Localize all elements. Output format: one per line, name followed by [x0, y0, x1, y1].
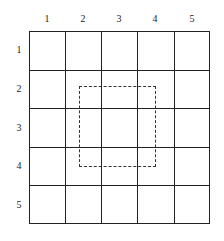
column-label-3: 3: [113, 14, 125, 24]
row-label-3: 3: [13, 123, 25, 133]
dashed-selection-rectangle: [79, 86, 156, 167]
grid-horizontal-line: [29, 185, 210, 186]
row-label-2: 2: [13, 84, 25, 94]
column-label-1: 1: [41, 14, 53, 24]
grid-vertical-line: [65, 31, 66, 224]
grid-vertical-line: [174, 31, 175, 224]
row-label-4: 4: [13, 161, 25, 171]
column-label-4: 4: [149, 14, 161, 24]
grid-horizontal-line: [29, 70, 210, 71]
row-label-5: 5: [13, 200, 25, 210]
row-label-1: 1: [13, 45, 25, 55]
column-label-5: 5: [186, 14, 198, 24]
column-label-2: 2: [77, 14, 89, 24]
